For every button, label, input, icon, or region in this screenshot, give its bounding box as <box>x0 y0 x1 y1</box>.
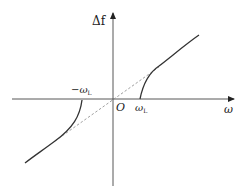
x-axis-label: ω <box>224 104 233 115</box>
pos-omega-l-label: ωL <box>135 103 147 114</box>
right-branch-curve <box>140 35 199 99</box>
y-axis-label: Δf <box>92 15 105 27</box>
pos-omega-text: ω <box>135 102 143 113</box>
neg-omega-subscript: L <box>88 89 92 96</box>
diagram-canvas: Δf ω O −ωL ωL <box>0 0 245 195</box>
neg-omega-text: −ω <box>71 84 88 95</box>
origin-label: O <box>116 102 125 113</box>
diagram-svg <box>0 0 245 195</box>
left-branch-curve <box>25 100 82 163</box>
x-axis-label-text: ω <box>224 103 233 116</box>
neg-omega-l-label: −ωL <box>71 85 92 96</box>
origin-label-text: O <box>116 101 125 114</box>
pos-omega-subscript: L <box>143 107 147 114</box>
y-axis-label-text: Δf <box>92 14 105 28</box>
